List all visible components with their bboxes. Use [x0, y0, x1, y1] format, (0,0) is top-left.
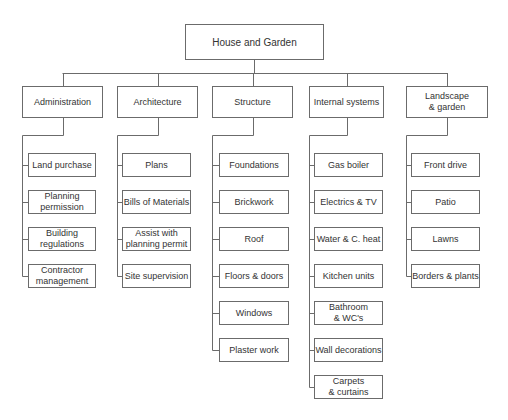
child-node: Floors & doors [219, 264, 289, 288]
child-node: Front drive [411, 153, 480, 177]
branch-node-architecture: Architecture [117, 86, 198, 118]
child-node: Foundations [219, 153, 289, 177]
child-node: Building regulations [28, 227, 96, 251]
child-node: Brickwork [219, 190, 289, 214]
child-node: Gas boiler [314, 153, 383, 177]
child-node: Patio [411, 190, 480, 214]
branch-node-internal-systems: Internal systems [309, 86, 384, 118]
root-node: House and Garden [185, 24, 324, 60]
child-node: Land purchase [28, 153, 96, 177]
child-node: Site supervision [122, 264, 191, 288]
child-node: Windows [219, 301, 289, 325]
child-node: Plaster work [219, 338, 289, 362]
child-node: Kitchen units [314, 264, 383, 288]
branch-node-landscape-garden: Landscape & garden [406, 86, 488, 118]
child-node: Contractor management [28, 264, 96, 288]
child-node: Lawns [411, 227, 480, 251]
child-node: Bathroom & WC's [314, 301, 383, 325]
branch-node-administration: Administration [22, 86, 103, 118]
branch-node-structure: Structure [212, 86, 293, 118]
child-node: Planning permission [28, 190, 96, 214]
child-node: Plans [122, 153, 191, 177]
child-node: Borders & plants [411, 264, 480, 288]
child-node: Carpets & curtains [314, 375, 383, 399]
child-node: Roof [219, 227, 289, 251]
child-node: Assist with planning permit [122, 227, 191, 251]
child-node: Bills of Materials [122, 190, 191, 214]
child-node: Water & C. heat [314, 227, 383, 251]
child-node: Wall decorations [314, 338, 383, 362]
child-node: Electrics & TV [314, 190, 383, 214]
